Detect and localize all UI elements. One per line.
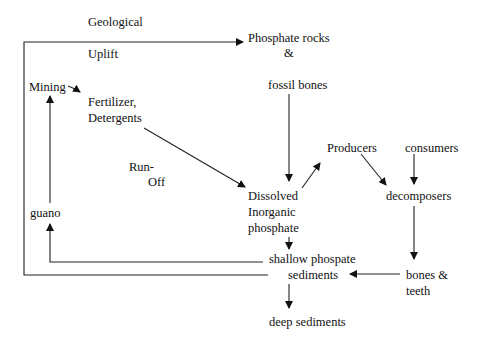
decomposers-node: decomposers bbox=[386, 189, 451, 204]
fertilizer-node: Fertilizer, bbox=[88, 95, 136, 110]
guano-node: guano bbox=[30, 206, 61, 221]
detergents-node: Detergents bbox=[88, 111, 142, 126]
producers-to-decomposers-arrow bbox=[361, 154, 386, 185]
mining-to-fertilizer-arrow bbox=[68, 86, 80, 92]
uplift-arrow bbox=[24, 42, 268, 275]
inorganic-node: Inorganic bbox=[248, 205, 296, 220]
ampersand-label: & bbox=[284, 46, 294, 61]
shallow-to-guano-arrow bbox=[50, 224, 263, 262]
shallow-sediments-node: shallow phospate bbox=[269, 252, 355, 267]
run-label: Run- bbox=[129, 160, 154, 175]
dissolved-node: Dissolved bbox=[248, 189, 298, 204]
consumers-node: consumers bbox=[405, 141, 458, 156]
producers-node: Producers bbox=[327, 141, 377, 156]
bones-node: bones & bbox=[406, 268, 448, 283]
geological-label: Geological bbox=[88, 15, 143, 30]
phosphate-rocks-node: Phosphate rocks bbox=[248, 31, 330, 46]
teeth-node: teeth bbox=[406, 284, 430, 299]
phosphate-node: phosphate bbox=[248, 221, 299, 236]
mining-node: Mining bbox=[29, 80, 66, 95]
off-label: Off bbox=[148, 175, 165, 190]
dissolved-to-producers-arrow bbox=[302, 163, 320, 188]
fossil-bones-node: fossil bones bbox=[268, 78, 327, 93]
uplift-label: Uplift bbox=[88, 47, 118, 62]
sediments-node: sediments bbox=[288, 268, 338, 283]
deep-sediments-node: deep sediments bbox=[269, 315, 346, 330]
